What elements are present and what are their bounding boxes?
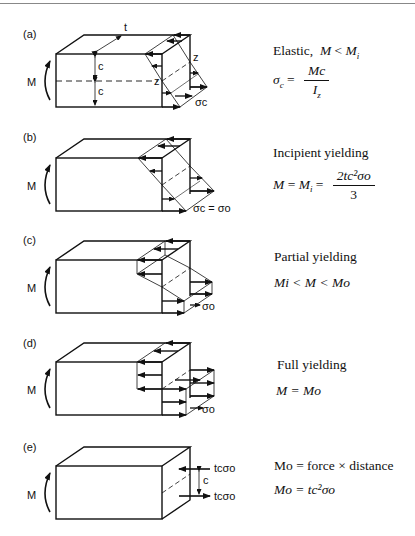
panel-c-condition: Mi < M < Mo — [274, 275, 350, 291]
panel-a-stress-label: σc — [195, 96, 208, 108]
panel-c-title: Partial yielding — [274, 249, 357, 265]
panel-d-label: (d) — [23, 337, 36, 349]
neutral-axis-label-front: z — [154, 75, 160, 87]
panel-b-fraction: 2tc²σo 3 — [333, 168, 375, 203]
thickness-label: t — [124, 21, 127, 33]
panel-b-moment-label: M — [27, 180, 36, 192]
panel-e-label: (e) — [23, 441, 36, 453]
panel-b-equation: M = Mi = 2tc²σo 3 — [273, 168, 375, 203]
panel-e-labels: (e) M c tcσo tcσo — [23, 441, 235, 502]
half-depth-label-bottom: c — [98, 85, 104, 97]
panel-a-moment-label: M — [27, 76, 36, 88]
panel-d-moment-label: M — [27, 384, 36, 396]
panel-e-line2: Mo = tc²σo — [274, 482, 335, 498]
panel-d-condition: M = Mo — [276, 383, 321, 399]
panel-b-labels: (b) M σc = σo — [23, 131, 231, 214]
panel-c-label: (c) — [23, 234, 36, 246]
panel-a-equation: σc = Mc Iz — [273, 63, 329, 100]
panel-b — [45, 139, 214, 211]
panel-e-force-bottom-label: tcσo — [214, 490, 235, 502]
panel-a-labels: (a) M t c c z z σc — [23, 21, 208, 108]
panel-e-arm-label: c — [203, 474, 209, 486]
panel-c — [45, 241, 212, 313]
half-depth-label-top: c — [98, 60, 104, 72]
panel-c-labels: (c) M σo — [23, 234, 215, 312]
beam-bending-figure: (a) M t c c z z σc (b) M σc = σo — [0, 0, 415, 536]
panel-d — [45, 343, 214, 415]
panel-b-stress-label: σc = σo — [193, 202, 231, 214]
panel-a — [45, 35, 207, 107]
panel-a-label: (a) — [23, 28, 36, 40]
panel-d-stress-label: σo — [202, 403, 215, 415]
panel-c-stress-label: σo — [202, 300, 215, 312]
panel-a-title: Elastic, M < Mi — [273, 43, 359, 61]
neutral-axis-label-back: z — [193, 51, 199, 63]
panel-a-fraction: Mc Iz — [304, 63, 329, 100]
panel-b-label: (b) — [23, 131, 36, 143]
panel-c-moment-label: M — [27, 282, 36, 294]
panel-e-moment-label: M — [27, 489, 36, 501]
panel-e — [45, 447, 210, 519]
panel-e-force-top-label: tcσo — [214, 462, 235, 474]
panel-e-line1: Mo = force × distance — [274, 458, 393, 474]
panel-b-title: Incipient yielding — [273, 145, 369, 161]
panel-d-title: Full yielding — [277, 357, 346, 373]
